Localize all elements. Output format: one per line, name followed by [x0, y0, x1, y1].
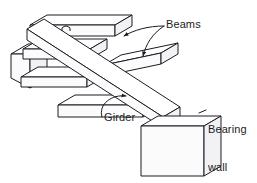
leader-bearing-wall	[199, 110, 206, 113]
framing-figure: Beams Girder Bearing wall	[0, 0, 257, 183]
label-beams: Beams	[166, 18, 201, 31]
label-bearing-wall-line1: Bearing	[208, 123, 247, 136]
label-bearing-wall: Bearing wall	[208, 98, 247, 183]
label-girder: Girder	[104, 111, 135, 124]
label-bearing-wall-line2: wall	[208, 161, 247, 174]
